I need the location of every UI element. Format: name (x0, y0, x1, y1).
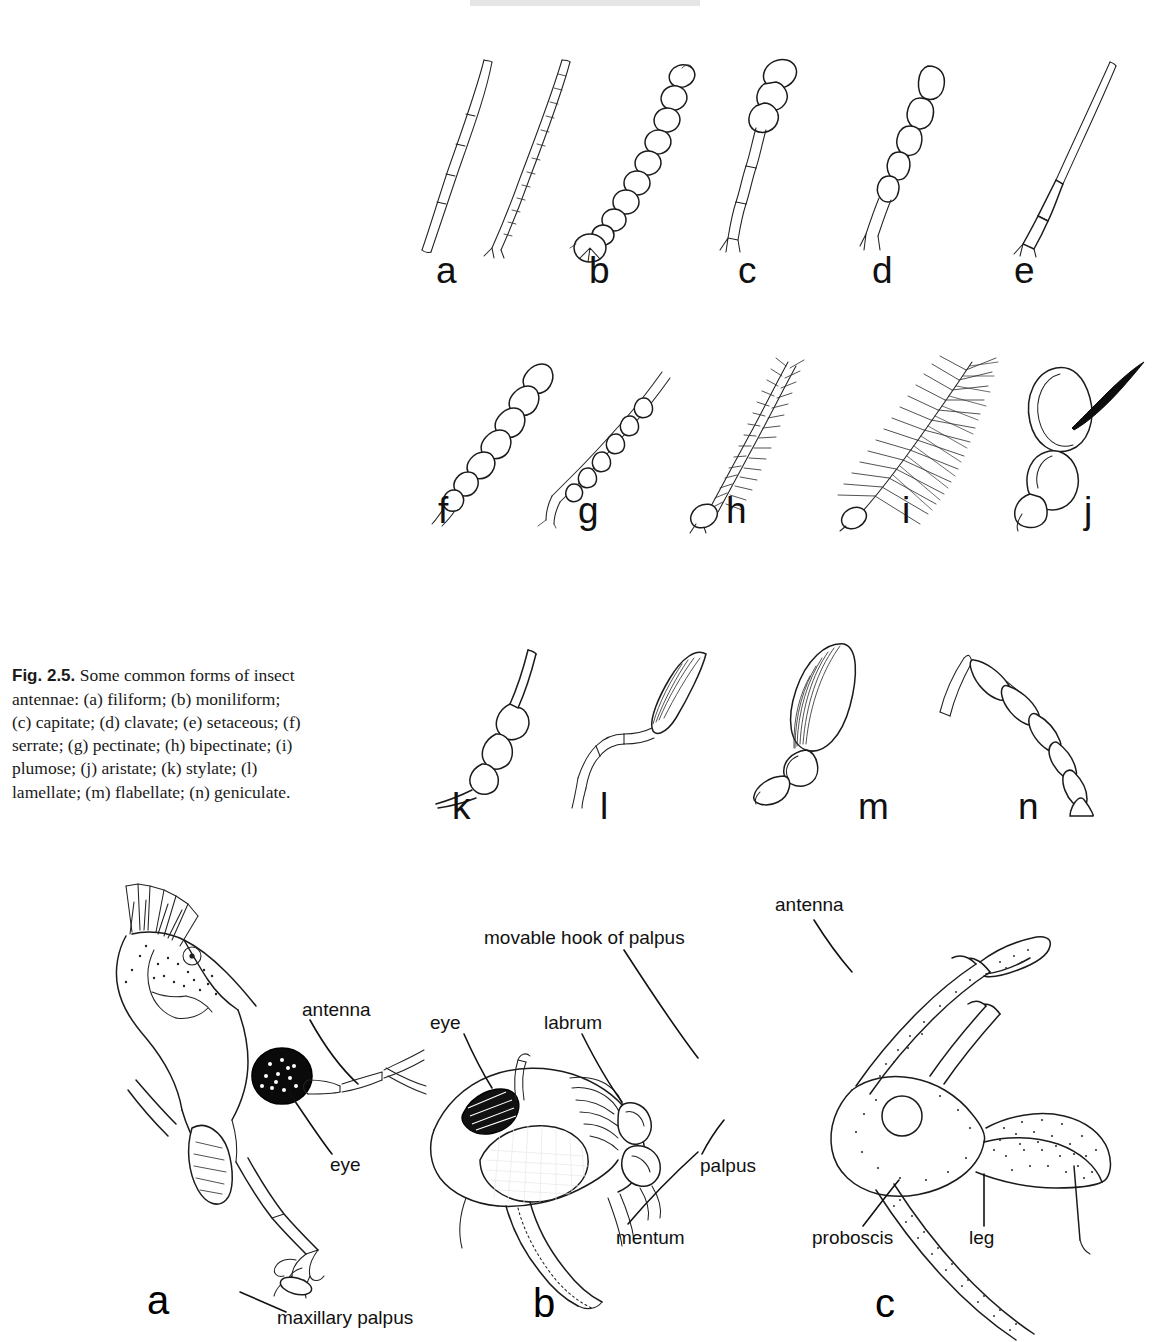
antenna-drawing-flabellate (748, 640, 898, 810)
antenna-drawing-setaceous (998, 58, 1128, 258)
antenna-letter-m: m (858, 788, 889, 825)
leader-head-a-maxillary-palpus (238, 1290, 298, 1320)
antenna-drawing-geniculate (930, 646, 1100, 816)
callout-head-b-labrum: labrum (544, 1013, 602, 1032)
figure-page: a b c (0, 0, 1168, 1342)
leader-head-c-antenna (812, 918, 872, 978)
antenna-drawing-pectinate (536, 368, 681, 528)
leader-head-b-eye (462, 1032, 512, 1092)
figure-caption-text: Some common forms of insect antennae: (a… (12, 665, 301, 802)
antenna-letter-a: a (436, 252, 457, 289)
page-header-remnant (470, 0, 700, 6)
antenna-letter-n: n (1018, 788, 1039, 825)
head-letter-a: a (147, 1280, 169, 1320)
callout-head-c-antenna: antenna (775, 895, 844, 914)
antenna-letter-e: e (1014, 252, 1035, 289)
leader-head-b-mentum (612, 1150, 702, 1230)
antenna-letter-b: b (589, 252, 610, 289)
head-letter-b: b (533, 1283, 555, 1323)
antenna-letter-k: k (452, 788, 471, 825)
antenna-letter-l: l (600, 788, 608, 825)
antenna-drawing-filiform (412, 52, 592, 262)
leader-head-c-leg (974, 1170, 1004, 1230)
leader-head-b-labrum (580, 1032, 640, 1107)
callout-head-b-eye: eye (430, 1013, 461, 1032)
antenna-letter-i: i (902, 492, 910, 529)
antenna-drawing-stylate (432, 648, 562, 808)
antenna-letter-g: g (578, 492, 599, 529)
leader-head-c-proboscis (855, 1178, 915, 1233)
head-letter-c: c (875, 1283, 895, 1323)
antenna-drawing-aristate (1000, 356, 1150, 531)
antenna-letter-f: f (438, 492, 448, 529)
antenna-drawing-clavate (858, 60, 978, 260)
antenna-letter-j: j (1084, 492, 1092, 529)
callout-head-b-mentum: mentum (616, 1228, 685, 1247)
antenna-letter-d: d (872, 252, 893, 289)
antenna-letter-h: h (726, 492, 747, 529)
leader-head-a-antenna (290, 1018, 400, 1098)
antenna-letter-c: c (738, 252, 757, 289)
antenna-drawing-capitate (718, 58, 838, 258)
antenna-drawing-moniliform (570, 62, 710, 262)
figure-caption: Fig. 2.5. Some common forms of insect an… (12, 664, 302, 804)
leader-head-a-eye (288, 1092, 348, 1162)
callout-head-a-antenna: antenna (302, 1000, 371, 1019)
figure-number: Fig. 2.5. (12, 666, 75, 685)
callout-head-b-movable-hook: movable hook of palpus (484, 928, 685, 947)
callout-head-c-leg: leg (969, 1228, 994, 1247)
antenna-drawing-lamellate (570, 648, 720, 808)
